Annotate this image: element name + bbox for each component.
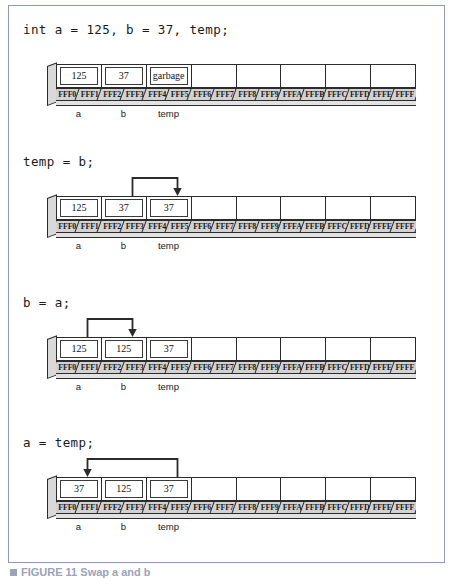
variable-label-temp: temp [146,381,191,395]
memory-cell [326,197,371,219]
caption-text: FIGURE 11 Swap a and b [21,566,151,578]
memory-bar: 12537garbage FFF0FFF1FFF2FFF3FFF4FFF5FFF… [56,60,416,108]
memory-cell-empty [240,205,278,211]
variable-label-empty [371,381,416,395]
address-strip: FFF0FFF1FFF2FFF3FFF4FFF5FFF6FFF7FFF8FFF9… [56,361,416,374]
variable-label-empty [371,108,416,122]
memory-cell [281,65,326,87]
variable-label-empty [236,240,281,254]
memory-address: FFFF [394,362,417,373]
memory-cell-empty [329,346,367,352]
address-strip: FFF0FFF1FFF2FFF3FFF4FFF5FFF6FFF7FFF8FFF9… [56,220,416,233]
panel-b-equals-a: b = a; 12512537 FFF0FFF1FFF2FFF3FFF4FFF5… [9,281,444,420]
memory-bar: 12512537 FFF0FFF1FFF2FFF3FFF4FFF5FFF6FFF… [56,333,416,381]
variable-label-temp: temp [146,108,191,122]
variable-label-a: a [56,240,101,254]
memory-diagram: 12537garbage FFF0FFF1FFF2FFF3FFF4FFF5FFF… [47,60,427,122]
memory-cell [371,338,415,360]
variable-label-b: b [101,108,146,122]
memory-cell [237,197,282,219]
memory-bar: 3712537 FFF0FFF1FFF2FFF3FFF4FFF5FFF6FFF7… [56,473,416,521]
memory-cell-value: 37 [150,480,188,498]
memory-cell: 37 [102,197,147,219]
assignment-arrow-layer [65,170,425,198]
memory-cells: 3712537 [56,477,416,501]
memory-cell [326,338,371,360]
memory-bar: 1253737 FFF0FFF1FFF2FFF3FFF4FFF5FFF6FFF7… [56,192,416,240]
memory-cell [237,478,282,500]
assignment-arrow-icon [65,451,425,479]
assignment-arrow-layer [65,451,425,479]
variable-label-empty [191,108,236,122]
assignment-arrow-icon [65,170,425,198]
memory-cell: 125 [57,65,102,87]
memory-cell-empty [329,73,367,79]
address-strip: FFF0FFF1FFF2FFF3FFF4FFF5FFF6FFF7FFF8FFF9… [56,501,416,514]
memory-cell: 37 [57,478,102,500]
memory-cell: 37 [147,197,192,219]
code-statement: temp = b; [23,154,94,169]
memory-cell-value: 37 [105,199,143,217]
memory-cells: 12512537 [56,337,416,361]
memory-cell-empty [240,486,278,492]
memory-cell-empty [240,73,278,79]
code-statement: int a = 125, b = 37, temp; [23,22,229,37]
memory-cell-empty [195,486,233,492]
memory-cell-empty [329,205,367,211]
variable-label-temp: temp [146,240,191,254]
panel-declaration: int a = 125, b = 37, temp; 12537garbage … [9,8,444,147]
variable-label-empty [326,240,371,254]
variable-label-empty [191,521,236,535]
memory-cell [192,65,237,87]
memory-cell: 37 [102,65,147,87]
variable-label-empty [236,108,281,122]
memory-bar-bottom-face [56,233,416,238]
memory-cell-value: 37 [150,199,188,217]
variable-label-temp: temp [146,521,191,535]
memory-diagram: 12512537 FFF0FFF1FFF2FFF3FFF4FFF5FFF6FFF… [47,333,427,395]
memory-cell-empty [374,346,412,352]
variable-label-b: b [101,381,146,395]
variable-label-empty [326,521,371,535]
memory-cell-empty [195,346,233,352]
memory-cell: 125 [57,338,102,360]
memory-cell-empty [374,73,412,79]
memory-bar-bottom-face [56,514,416,519]
memory-cell [281,338,326,360]
memory-diagram: 1253737 FFF0FFF1FFF2FFF3FFF4FFF5FFF6FFF7… [47,192,427,254]
memory-cell-empty [284,205,322,211]
memory-cell [281,478,326,500]
variable-label-empty [281,108,326,122]
assignment-arrow-icon [65,311,425,339]
memory-cell [371,197,415,219]
address-strip: FFF0FFF1FFF2FFF3FFF4FFF5FFF6FFF7FFF8FFF9… [56,88,416,101]
variable-label-b: b [101,240,146,254]
code-statement: a = temp; [23,435,94,450]
assignment-arrow-layer [65,38,425,66]
memory-address: FFFF [394,502,417,513]
memory-cells: 1253737 [56,196,416,220]
memory-cell-empty [195,205,233,211]
figure-frame: int a = 125, b = 37, temp; 12537garbage … [8,5,445,563]
memory-cell [237,65,282,87]
memory-address: FFFF [394,89,417,100]
memory-cell: garbage [147,65,192,87]
memory-cell [237,338,282,360]
memory-cell-value: 37 [60,480,98,498]
memory-cell [192,478,237,500]
memory-cell: 37 [147,338,192,360]
variable-label-empty [191,381,236,395]
memory-cell: 125 [102,338,147,360]
variable-label-empty [326,381,371,395]
memory-cell-value: garbage [150,67,188,85]
variable-label-empty [281,521,326,535]
memory-cell: 125 [102,478,147,500]
memory-cell-empty [284,346,322,352]
panel-a-equals-temp: a = temp; 3712537 FFF0FFF1FFF2FFF3FFF4FF… [9,421,444,560]
memory-cell-empty [329,486,367,492]
memory-cell-empty [374,486,412,492]
memory-cell-empty [284,486,322,492]
memory-cell [326,65,371,87]
memory-cell-value: 37 [105,67,143,85]
variable-label-empty [371,240,416,254]
